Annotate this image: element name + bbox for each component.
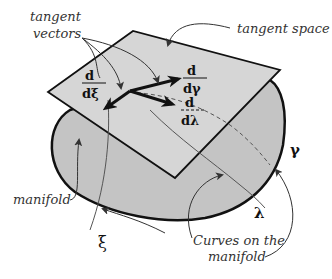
label-tangent-vectors-1: tangent [30, 9, 82, 24]
label-curves-line1: Curves on the [193, 233, 285, 248]
tangent-space-diagram: tangent vectors tangent space manifold C… [0, 0, 332, 279]
fraction-gamma-denominator: dγ [183, 81, 201, 96]
fraction-lambda-denominator: dλ [181, 113, 199, 128]
annotation-arrow-tangent-space [168, 24, 230, 45]
fraction-gamma-numerator: d [187, 63, 196, 78]
label-curves-line2: manifold [208, 249, 266, 264]
fraction-xi-denominator: dξ [82, 86, 99, 101]
label-tangent-space: tangent space [237, 21, 330, 36]
fraction-xi-numerator: d [85, 68, 94, 83]
symbol-lambda: λ [254, 204, 265, 222]
fraction-lambda-numerator: d [185, 95, 194, 110]
symbol-xi: ξ [98, 233, 107, 252]
label-manifold: manifold [13, 192, 71, 207]
symbol-gamma: γ [290, 141, 300, 159]
label-tangent-vectors-2: vectors [33, 26, 82, 41]
